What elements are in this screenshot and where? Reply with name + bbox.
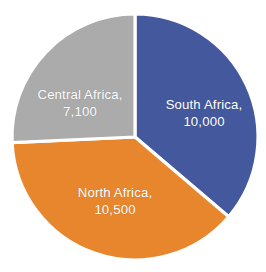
pie-slice-central-africa[interactable] — [12, 14, 135, 143]
pie-chart-canvas — [0, 0, 266, 272]
pie-slices — [12, 14, 258, 260]
pie-chart: South Africa, 10,000 North Africa, 10,50… — [0, 0, 266, 272]
